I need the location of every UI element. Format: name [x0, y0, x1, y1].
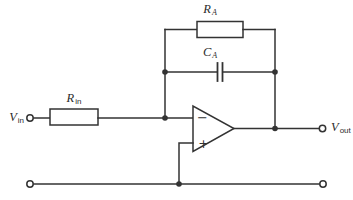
circuit-diagram: − + Vin Rin RA CA Vout [0, 0, 353, 200]
vout-label: Vout [331, 121, 351, 135]
ca-label-sub: A [212, 51, 217, 60]
vin-label: Vin [2, 111, 24, 125]
junction-dot-cap-right [272, 69, 278, 75]
vout-label-main: V [331, 120, 339, 134]
junction-dot-output-node [272, 126, 278, 132]
ra-label: RA [190, 3, 230, 17]
junction-dot-ground-node [176, 181, 182, 187]
vin-label-main: V [9, 110, 17, 124]
vin-label-sub: in [18, 116, 24, 125]
input-terminal [27, 115, 33, 121]
rin-label-sub: in [75, 97, 81, 106]
resistor-ra-body [197, 22, 243, 38]
output-terminal [319, 125, 325, 131]
ground-terminal-left [27, 181, 33, 187]
circuit-svg: − + [0, 0, 353, 200]
resistor-rin-body [50, 109, 98, 125]
rin-label: Rin [54, 92, 94, 106]
noninverting-input-wire [179, 143, 193, 184]
opamp-noninverting-sign: + [198, 136, 208, 151]
rin-label-main: R [67, 91, 75, 105]
ra-label-main: R [203, 2, 211, 16]
junction-dot-cap-left [162, 69, 168, 75]
ra-label-sub: A [212, 8, 217, 17]
ca-label-main: C [203, 45, 211, 59]
junction-dot-inverting-node [162, 115, 168, 121]
ca-label: CA [190, 46, 230, 60]
vout-label-sub: out [340, 126, 351, 135]
opamp-inverting-sign: − [197, 110, 208, 125]
ground-terminal-right [320, 181, 326, 187]
